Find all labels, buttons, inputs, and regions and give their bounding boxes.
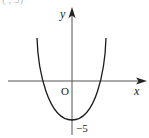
y-axis-label: y — [60, 8, 65, 20]
graph-canvas — [0, 0, 149, 138]
origin-label: O — [61, 86, 69, 97]
y-intercept-label: −5 — [76, 123, 88, 134]
function-graph: ( , 5) y O x −5 — [0, 0, 149, 138]
x-axis-label: x — [134, 85, 139, 97]
